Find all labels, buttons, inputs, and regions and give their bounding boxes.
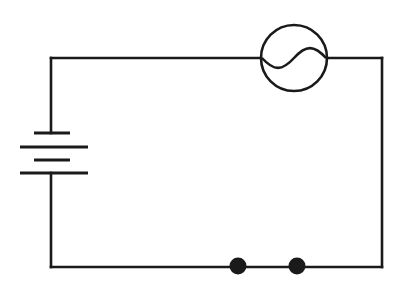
circuit-canvas (0, 0, 402, 289)
circuit-diagram (0, 0, 402, 289)
terminal-node-right (289, 258, 306, 275)
diagram-background (0, 0, 402, 289)
terminal-node-left (230, 258, 247, 275)
